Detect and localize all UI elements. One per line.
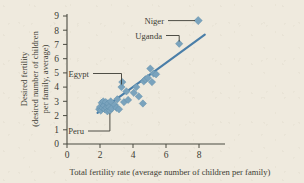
y-tick-label: 9 [54,11,59,21]
chart-figure: 0 1 2 3 4 5 6 7 8 9 0 2 4 6 8 Total fert [0,0,304,183]
data-point [194,16,202,24]
y-axis-tick-labels: 0 1 2 3 4 5 6 7 8 9 [54,11,59,149]
uganda-label: Uganda [135,31,162,41]
y-tick-label: 3 [54,97,59,107]
x-tick-label: 0 [65,150,70,160]
annotation-egypt: Egypt [68,69,121,85]
y-axis-ticks [63,16,67,144]
niger-label: Niger [144,16,164,26]
y-tick-label: 1 [54,125,59,135]
x-tick-label: 6 [164,150,169,160]
y-tick-label: 6 [54,54,59,64]
peru-leader-line [88,114,110,132]
egypt-label: Egypt [68,69,89,79]
y-tick-label: 8 [54,26,59,36]
peru-label: Peru [68,126,84,136]
x-axis-tick-labels: 0 2 4 6 8 [65,150,202,160]
uganda-leader-line [166,36,179,42]
x-tick-label: 4 [131,150,136,160]
y-axis-title: Desired fertility (desired number of chi… [19,30,50,126]
y-tick-label: 7 [54,40,59,50]
annotation-uganda: Uganda [135,31,179,42]
y-tick-label: 2 [54,111,59,121]
y-axis-title-line: per family, average) [40,44,50,113]
annotation-peru: Peru [68,114,110,137]
egypt-leader-line [93,74,122,85]
data-point [119,78,126,85]
y-axis-title-line: (desired number of children [30,30,40,126]
y-tick-label: 5 [54,68,59,78]
x-axis-ticks [67,144,199,148]
x-tick-label: 8 [197,150,202,160]
y-tick-label: 0 [54,139,59,149]
x-tick-label: 2 [98,150,103,160]
y-tick-label: 4 [54,82,59,92]
x-axis-title: Total fertility rate (average number of … [70,167,271,177]
scatter-plot-svg: 0 1 2 3 4 5 6 7 8 9 0 2 4 6 8 Total fert [0,0,304,183]
y-axis-title-line: Desired fertility [19,51,29,106]
annotation-niger: Niger [144,16,195,26]
data-point [139,100,146,107]
